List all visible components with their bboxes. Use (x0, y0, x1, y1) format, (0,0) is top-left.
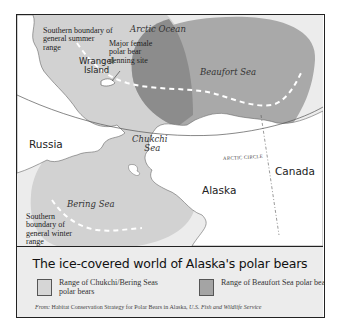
swatch-beaufort (199, 279, 214, 296)
label-winter-boundary: Southern boundary of general winter rang… (26, 213, 72, 247)
label-beaufort-sea: Beaufort Sea (200, 68, 256, 77)
label-russia: Russia (29, 139, 63, 150)
map-legend: The ice-covered world of Alaska's polar … (17, 246, 323, 317)
label-alaska: Alaska (202, 185, 236, 196)
label-denning-site: Major female polar bear denning site (109, 40, 152, 65)
map-figure: Arctic Ocean Beaufort Sea Chukchi Sea Be… (16, 14, 325, 318)
label-chukchi-sea: Chukchi Sea (132, 135, 168, 153)
label-canada: Canada (275, 166, 315, 177)
polar-bear-range-map: Arctic Ocean Beaufort Sea Chukchi Sea Be… (17, 15, 323, 246)
legend-item-chukchi-bering: Range of Chukchi/Bering Seas polar bears (37, 278, 169, 296)
label-arctic-ocean: Arctic Ocean (130, 25, 186, 34)
legend-item-beaufort: Range of Beaufort Sea polar bears (199, 278, 325, 296)
legend-source: From: Habitat Conservation Strategy for … (35, 304, 261, 310)
label-summer-boundary: Southern boundary of general summer rang… (43, 27, 113, 52)
legend-title: The ice-covered world of Alaska's polar … (17, 256, 323, 271)
swatch-chukchi-bering (37, 279, 52, 296)
label-bering-sea: Bering Sea (67, 200, 115, 209)
